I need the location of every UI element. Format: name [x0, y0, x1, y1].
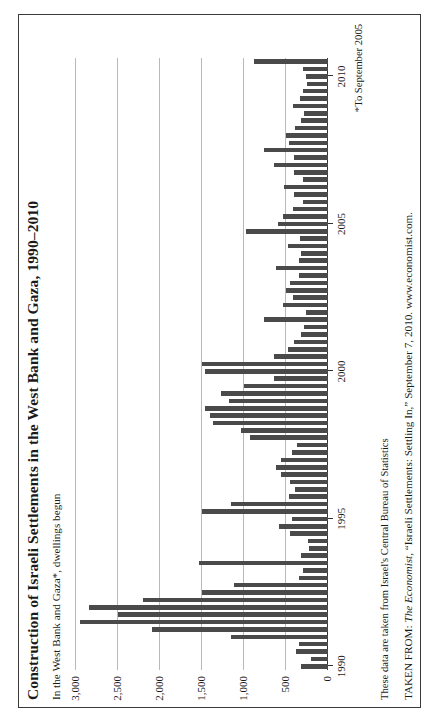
bar [303, 325, 327, 330]
bar [308, 546, 327, 551]
bar [306, 74, 328, 79]
bar [311, 657, 328, 662]
bar [202, 590, 328, 595]
bar [307, 82, 328, 87]
bar [300, 236, 328, 241]
bar [302, 200, 327, 205]
bar [296, 649, 328, 654]
figure-data-note: These data are taken from Israel's Centr… [379, 438, 390, 700]
rotated-figure-stage: Construction of Israeli Settlements in t… [20, 16, 420, 706]
figure-source: TAKEN FROM: The Economist, “Israeli Sett… [402, 212, 414, 700]
bar [280, 472, 327, 477]
bar [284, 185, 328, 190]
figure-title: Construction of Israeli Settlements in t… [24, 201, 42, 700]
bar [151, 627, 327, 632]
bar-series [76, 58, 328, 670]
bar [277, 222, 327, 227]
bar [295, 126, 328, 131]
bar [88, 605, 327, 610]
bar [275, 266, 327, 271]
y-axis-tick-label: 500 [279, 676, 291, 693]
bar [294, 340, 328, 345]
bar [292, 295, 327, 300]
bar [291, 450, 327, 455]
x-axis-tick-label: 2005 [335, 213, 347, 235]
bar [302, 89, 327, 94]
bar [302, 568, 327, 573]
x-axis-tick-label: 2000 [335, 360, 347, 382]
bar [291, 517, 327, 522]
x-axis: 19901995200020052010 [328, 58, 358, 670]
bar [264, 317, 328, 322]
bar [118, 612, 328, 617]
bar [294, 192, 328, 197]
bar [205, 406, 328, 411]
y-axis-tick-label: 1,000 [237, 676, 249, 701]
bar [301, 118, 328, 123]
figure: Construction of Israeli Settlements in t… [20, 16, 420, 706]
bar [199, 561, 328, 566]
y-axis-tick-label: 2,500 [111, 676, 123, 701]
bar [302, 177, 327, 182]
bar [295, 487, 328, 492]
bar [296, 443, 327, 448]
bar [221, 391, 328, 396]
bar [280, 458, 327, 463]
bar [254, 59, 328, 64]
bar [210, 413, 328, 418]
bar [230, 502, 327, 507]
x-axis-tick-label: 1995 [335, 508, 347, 530]
source-prefix: TAKEN FROM: [402, 623, 414, 700]
bar [245, 229, 327, 234]
bar [80, 620, 328, 625]
bar [205, 369, 328, 374]
bar [300, 96, 328, 101]
x-axis-tick-label: 1990 [335, 655, 347, 677]
bar [301, 251, 328, 256]
bar [304, 111, 328, 116]
y-axis-tick-label: 1,500 [195, 676, 207, 701]
figure-page-frame: Construction of Israeli Settlements in t… [18, 14, 421, 708]
bar [302, 67, 327, 72]
bar [299, 576, 328, 581]
figure-subtitle: In the West Bank and Gaza*, dwellings be… [50, 494, 62, 700]
bar [286, 133, 328, 138]
bar [244, 384, 328, 389]
bar [283, 214, 328, 219]
bar [212, 421, 327, 426]
bar [307, 539, 327, 544]
bar [299, 642, 328, 647]
bar [299, 273, 328, 278]
bar [292, 207, 327, 212]
bar [294, 170, 328, 175]
bar [294, 155, 328, 160]
bar [283, 303, 328, 308]
bar [274, 354, 328, 359]
bar [286, 288, 328, 293]
bar [275, 465, 327, 470]
bar [249, 435, 327, 440]
bar [301, 664, 328, 669]
bar [287, 244, 327, 249]
bar [287, 347, 327, 352]
bar [290, 281, 328, 286]
bar [290, 531, 328, 536]
x-axis-tick-label: 2010 [335, 65, 347, 87]
y-axis-tick-label: 3,000 [69, 676, 81, 701]
bar [264, 148, 328, 153]
bar [202, 362, 328, 367]
bar [274, 163, 328, 168]
x-axis-tick [328, 665, 333, 666]
x-axis-tick [328, 75, 333, 76]
bar [202, 509, 328, 514]
bar [143, 598, 328, 603]
bar [228, 399, 327, 404]
bar [288, 494, 327, 499]
bar [290, 480, 328, 485]
y-axis-tick-label: 0 [320, 676, 332, 682]
bar [241, 428, 328, 433]
bar [288, 141, 327, 146]
bar [301, 332, 328, 337]
figure-footnote: *To September 2005 [353, 24, 364, 112]
x-axis-tick [328, 370, 333, 371]
